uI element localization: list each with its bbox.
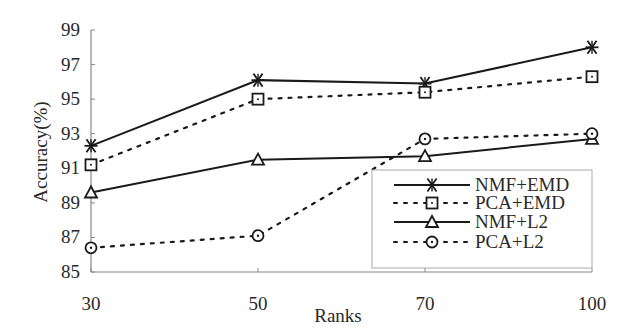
asterisk-marker — [586, 41, 599, 54]
legend-label: PCA+EMD — [475, 192, 565, 213]
x-axis-title: Ranks — [314, 305, 362, 326]
asterisk-marker — [85, 139, 98, 152]
y-tick-label: 91 — [61, 157, 80, 178]
legend: NMF+EMDPCA+EMDNMF+L2PCA+L2 — [372, 170, 592, 268]
y-tick-label: 95 — [61, 88, 80, 109]
series-pca-emd — [86, 71, 598, 170]
series-line — [91, 77, 592, 165]
y-tick-label: 85 — [61, 261, 80, 282]
asterisk-marker — [252, 74, 265, 87]
y-tick-label: 97 — [61, 54, 80, 75]
y-tick-label: 99 — [61, 19, 80, 40]
y-tick-label: 93 — [61, 123, 80, 144]
y-tick-label: 87 — [61, 226, 80, 247]
legend-label: PCA+L2 — [475, 231, 544, 252]
y-axis-title: Accuracy(%) — [30, 101, 52, 202]
x-tick-label: 100 — [578, 293, 607, 314]
x-tick-label: 50 — [249, 293, 268, 314]
line-chart: 9997959391898785 305070100 Accuracy(%) R… — [0, 0, 635, 336]
x-tick-label: 30 — [82, 293, 101, 314]
y-axis-tick-labels: 9997959391898785 — [61, 19, 80, 282]
y-tick-label: 89 — [61, 192, 80, 213]
legend-label: NMF+L2 — [475, 211, 548, 232]
x-tick-label: 70 — [416, 293, 435, 314]
